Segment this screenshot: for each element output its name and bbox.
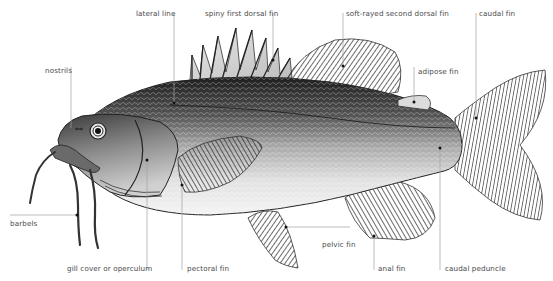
spiny-dorsal-fin-shape <box>190 28 292 82</box>
label-caudal-peduncle: caudal peduncle <box>445 264 506 273</box>
label-pectoral-fin: pectoral fin <box>187 264 229 273</box>
label-soft-rayed-second-dorsal-fin: soft-rayed second dorsal fin <box>346 9 449 18</box>
label-adipose-fin: adipose fin <box>418 67 459 76</box>
label-anal-fin: anal fin <box>378 264 406 273</box>
label-caudal-fin: caudal fin <box>479 9 515 18</box>
fish-illustration <box>0 0 553 281</box>
label-nostrils: nostrils <box>45 66 72 75</box>
label-gill-cover-or-operculum: gill cover or operculum <box>67 264 152 273</box>
pelvic-fin-shape <box>248 211 298 268</box>
label-spiny-first-dorsal-fin: spiny first dorsal fin <box>205 9 278 18</box>
caudal-fin-shape <box>455 70 546 220</box>
label-barbels: barbels <box>10 219 37 228</box>
label-lateral-line: lateral line <box>136 9 175 18</box>
label-pelvic-fin: pelvic fin <box>322 240 356 249</box>
eye-shape <box>90 123 106 139</box>
fish-anatomy-diagram: lateral line spiny first dorsal fin soft… <box>0 0 553 281</box>
